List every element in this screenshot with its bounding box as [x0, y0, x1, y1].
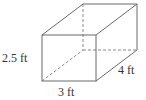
- front-face: [42, 35, 96, 81]
- prism-diagram: 2.5 ft 3 ft 4 ft: [0, 0, 146, 100]
- top-face: [42, 4, 137, 35]
- hidden-depth-edge: [42, 50, 83, 81]
- height-label: 2.5 ft: [2, 51, 28, 65]
- width-label: 3 ft: [58, 85, 75, 99]
- depth-label: 4 ft: [118, 63, 135, 77]
